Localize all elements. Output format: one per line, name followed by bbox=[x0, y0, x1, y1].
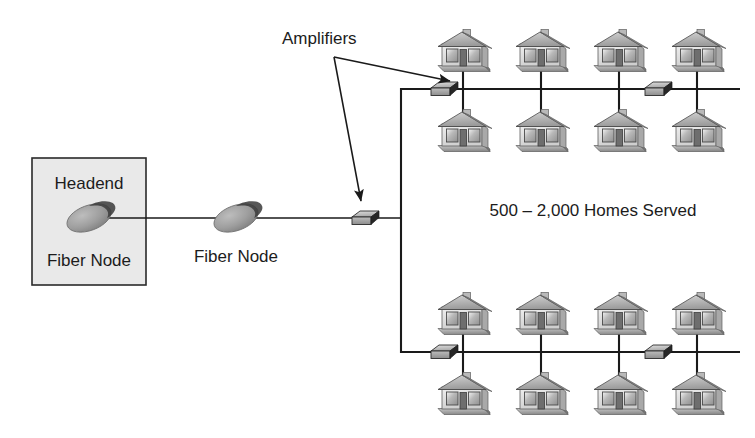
bottom-cluster-lower-row bbox=[438, 373, 726, 415]
bottom-cluster-upper-row bbox=[438, 293, 726, 335]
house-icon bbox=[672, 373, 726, 415]
amplifiers-label: Amplifiers bbox=[282, 29, 357, 48]
house-icon bbox=[594, 373, 648, 415]
house-icon bbox=[672, 293, 726, 335]
top-bus-amplifier-2-icon bbox=[645, 82, 672, 96]
house-icon bbox=[438, 30, 492, 72]
trunk-fiber-node-icon bbox=[210, 197, 265, 238]
hfc-network-diagram: Headend Fiber Node Fiber Node bbox=[0, 0, 755, 438]
house-icon bbox=[594, 293, 648, 335]
house-icon bbox=[594, 110, 648, 152]
house-icon bbox=[594, 30, 648, 72]
house-icon bbox=[672, 110, 726, 152]
house-icon bbox=[516, 30, 570, 72]
bottom-bus-amplifier-2-icon bbox=[645, 345, 672, 359]
top-cluster-lower-row bbox=[438, 110, 726, 152]
top-bus-amplifier-1-icon bbox=[431, 82, 458, 96]
house-icon bbox=[516, 373, 570, 415]
trunk-fiber-node-label: Fiber Node bbox=[194, 247, 278, 266]
amplifiers-arrow-to-trunk bbox=[334, 57, 361, 201]
bottom-bus-amplifier-1-icon bbox=[431, 345, 458, 359]
diagram-canvas: Headend Fiber Node Fiber Node bbox=[0, 0, 755, 438]
house-icon bbox=[672, 30, 726, 72]
headend-label: Headend bbox=[54, 174, 123, 193]
homes-served-label: 500 – 2,000 Homes Served bbox=[490, 201, 697, 220]
amplifiers-arrow-to-top-bus bbox=[334, 57, 450, 81]
house-icon bbox=[438, 373, 492, 415]
house-icon bbox=[438, 110, 492, 152]
top-cluster-upper-row bbox=[438, 30, 726, 72]
house-icon bbox=[516, 293, 570, 335]
house-icon bbox=[516, 110, 570, 152]
headend-fiber-node-label: Fiber Node bbox=[47, 251, 131, 270]
trunk-amplifier-icon bbox=[352, 211, 379, 225]
house-icon bbox=[438, 293, 492, 335]
